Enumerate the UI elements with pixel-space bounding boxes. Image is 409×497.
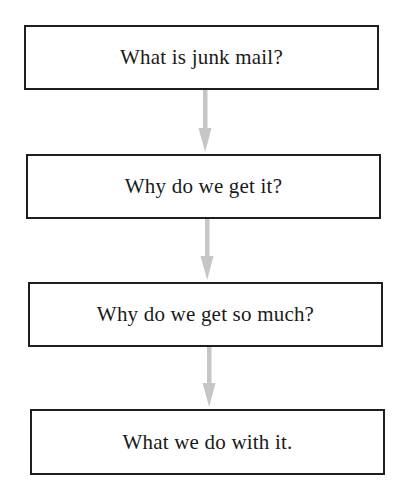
- node-label: What is junk mail?: [120, 45, 283, 70]
- arrow-down-icon: [195, 90, 215, 154]
- node-label: Why do we get so much?: [97, 302, 314, 327]
- flowchart-node-why-do-we-get-so-much: Why do we get so much?: [28, 282, 383, 347]
- flowchart-node-what-is-junk-mail: What is junk mail?: [24, 25, 379, 90]
- flowchart: What is junk mail? Why do we get it? Why…: [0, 0, 409, 497]
- flowchart-node-why-do-we-get-it: Why do we get it?: [26, 154, 381, 219]
- node-label: Why do we get it?: [125, 174, 282, 199]
- arrow-down-icon: [199, 347, 219, 409]
- flowchart-node-what-we-do-with-it: What we do with it.: [30, 409, 385, 475]
- node-label: What we do with it.: [122, 430, 292, 455]
- arrow-down-icon: [197, 219, 217, 282]
